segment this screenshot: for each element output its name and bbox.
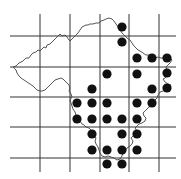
occurrence-dot bbox=[117, 114, 126, 123]
occurrence-dot bbox=[117, 129, 126, 138]
occurrence-dot bbox=[87, 98, 96, 107]
occurrence-dot bbox=[147, 84, 156, 93]
occurrence-dot bbox=[162, 53, 171, 62]
occurrence-dot bbox=[87, 114, 96, 123]
occurrence-dot bbox=[72, 98, 81, 107]
occurrence-dot bbox=[87, 84, 96, 93]
occurrence-dot bbox=[72, 114, 81, 123]
occurrence-dot bbox=[132, 69, 141, 78]
distribution-map bbox=[0, 0, 181, 179]
occurrence-dot bbox=[132, 53, 141, 62]
occurrence-dot bbox=[132, 98, 141, 107]
occurrence-dot bbox=[132, 145, 141, 154]
occurrence-dot bbox=[147, 53, 156, 62]
occurrence-dot bbox=[102, 98, 111, 107]
occurrence-dot bbox=[132, 129, 141, 138]
occurrence-dot bbox=[102, 69, 111, 78]
occurrence-dot bbox=[102, 114, 111, 123]
occurrence-dot bbox=[117, 159, 126, 168]
occurrence-dot bbox=[117, 22, 126, 31]
occurrence-dot bbox=[117, 37, 126, 46]
occurrence-dot bbox=[102, 159, 111, 168]
occurrence-dot bbox=[117, 145, 126, 154]
occurrence-dot bbox=[162, 68, 171, 77]
occurrence-dot bbox=[102, 145, 111, 154]
occurrence-dot bbox=[162, 83, 171, 92]
occurrence-dot bbox=[147, 98, 156, 107]
occurrence-dot bbox=[132, 114, 141, 123]
occurrence-dot bbox=[87, 145, 96, 154]
occurrence-dot bbox=[87, 129, 96, 138]
